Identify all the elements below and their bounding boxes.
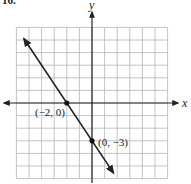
point-marker — [64, 100, 69, 105]
point-label-x-intercept: (−2, 0) — [35, 106, 65, 119]
point-label-y-intercept: (0, −3) — [98, 136, 128, 149]
x-axis-label: x — [181, 96, 188, 110]
coordinate-graph: x y (−2, 0) (0, −3) — [0, 0, 191, 184]
point-marker — [89, 138, 94, 143]
y-axis-label: y — [88, 0, 95, 12]
